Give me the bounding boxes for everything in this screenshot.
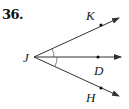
label-d: D — [93, 63, 104, 78]
label-h: H — [85, 90, 96, 105]
label-k: K — [85, 8, 96, 23]
ray-jk — [34, 18, 119, 57]
label-j: J — [23, 50, 30, 65]
ray-jh — [34, 57, 119, 96]
angle-diagram: J K D H — [0, 0, 129, 109]
point-k — [99, 23, 102, 26]
angle-mark-djh — [55, 57, 57, 67]
point-h — [99, 86, 102, 89]
point-d — [96, 55, 99, 58]
angle-mark-kjd — [52, 49, 54, 57]
